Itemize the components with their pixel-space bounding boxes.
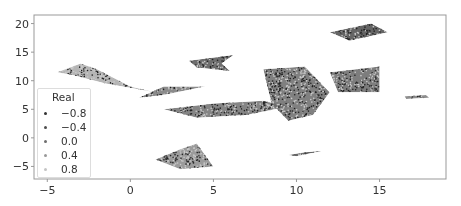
legend-label: 0.0 — [61, 135, 78, 147]
legend-label: −0.4 — [61, 121, 87, 133]
legend-marker-icon — [44, 168, 47, 171]
y-tick-label: 5 — [22, 103, 29, 116]
legend-label: −0.8 — [61, 107, 87, 119]
legend-label: 0.8 — [61, 163, 78, 175]
legend-marker-icon — [44, 154, 47, 157]
legend-marker-icon — [44, 112, 47, 115]
legend-item: 0.8 — [44, 162, 78, 176]
y-tick-label: 20 — [15, 18, 29, 31]
x-tick-label: 15 — [373, 184, 387, 197]
x-tick-label: −5 — [39, 184, 55, 197]
legend-marker-icon — [44, 140, 47, 143]
legend-marker-icon — [44, 126, 47, 129]
x-tick-label: 5 — [210, 184, 217, 197]
x-axis: −5051015 — [39, 179, 386, 197]
x-tick-label: 10 — [289, 184, 303, 197]
legend-item: −0.8 — [44, 106, 87, 120]
y-tick-label: 10 — [15, 75, 29, 88]
legend-title: Real — [52, 91, 75, 103]
y-tick-label: −5 — [13, 160, 29, 173]
legend-item: −0.4 — [44, 120, 87, 134]
x-tick-label: 0 — [127, 184, 134, 197]
y-axis: −505101520 — [13, 18, 34, 174]
plot-frame — [34, 15, 446, 179]
legend-label: 0.4 — [61, 149, 78, 161]
y-tick-label: 0 — [22, 132, 29, 145]
legend-item: 0.4 — [44, 148, 78, 162]
scatter-points — [56, 23, 429, 170]
y-tick-label: 15 — [15, 46, 29, 59]
legend-item: 0.0 — [44, 134, 78, 148]
legend: Real −0.8−0.40.00.40.8 — [37, 88, 91, 178]
